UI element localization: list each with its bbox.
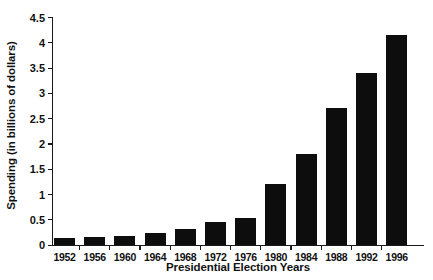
x-axis-title: Presidential Election Years — [48, 261, 428, 273]
x-tick-mark — [109, 246, 110, 251]
x-tick-mark — [321, 246, 322, 251]
y-tick-mark — [48, 68, 53, 69]
x-tick-mark — [200, 246, 201, 251]
bar — [326, 108, 347, 245]
y-tick-label: 3.5 — [30, 63, 45, 74]
bar — [265, 184, 286, 245]
y-tick-label: 1 — [39, 189, 45, 200]
y-tick-mark — [48, 219, 53, 220]
x-tick-mark — [260, 246, 261, 251]
y-tick-label: 3 — [39, 88, 45, 99]
bar — [235, 218, 256, 244]
y-tick-mark — [48, 17, 53, 18]
y-tick-mark — [48, 93, 53, 94]
y-axis-line — [52, 17, 53, 245]
y-tick-mark — [48, 194, 53, 195]
y-tick-mark — [48, 143, 53, 144]
plot-area: 00.511.522.533.544.5 1952195619601964196… — [52, 14, 424, 246]
y-tick-mark — [48, 245, 53, 246]
y-tick-mark — [48, 42, 53, 43]
x-tick-mark — [79, 246, 80, 251]
bar — [175, 229, 196, 244]
bar-chart-figure: Spending (in billions of dollars) 00.511… — [0, 0, 433, 280]
x-tick-mark — [139, 246, 140, 251]
y-tick-label: 4.5 — [30, 12, 45, 23]
y-tick-label: 2.5 — [30, 113, 45, 124]
bar — [296, 154, 317, 245]
bar — [54, 238, 75, 245]
bar — [205, 222, 226, 244]
x-tick-mark — [351, 246, 352, 251]
y-tick-label: 4 — [39, 37, 45, 48]
y-tick-label: 1.5 — [30, 164, 45, 175]
y-tick-label: 2 — [39, 138, 45, 149]
y-tick-label: 0 — [39, 240, 45, 251]
y-axis-title: Spending (in billions of dollars) — [2, 3, 20, 248]
x-tick-mark — [170, 246, 171, 251]
bar — [356, 73, 377, 245]
bar — [386, 35, 407, 245]
x-tick-mark — [290, 246, 291, 251]
y-tick-mark — [48, 118, 53, 119]
bar — [145, 233, 166, 244]
bar — [114, 236, 135, 245]
x-tick-mark — [230, 246, 231, 251]
bar — [84, 237, 105, 245]
x-axis-line — [52, 245, 424, 246]
y-tick-mark — [48, 169, 53, 170]
y-tick-label: 0.5 — [30, 214, 45, 225]
x-tick-mark — [381, 246, 382, 251]
